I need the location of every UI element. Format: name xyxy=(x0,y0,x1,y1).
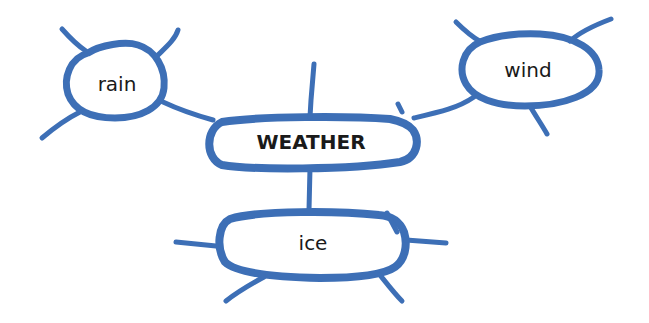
center-topic-label: WEATHER xyxy=(256,130,365,154)
connector-weather-rain xyxy=(163,102,213,120)
wind-label: wind xyxy=(504,58,551,82)
node-ice xyxy=(176,212,446,301)
connector-weather-wind xyxy=(414,97,474,118)
rain-label: rain xyxy=(98,72,137,96)
ice-label: ice xyxy=(299,231,328,255)
connector-weather-ice xyxy=(309,168,310,210)
mind-map-canvas xyxy=(0,0,649,323)
